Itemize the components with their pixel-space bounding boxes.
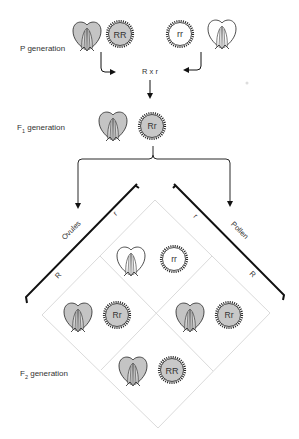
f2-top-white-flower-icon — [117, 247, 145, 276]
f2-right-red-flower-icon — [176, 303, 204, 332]
ovules-allele-r: r — [111, 209, 119, 217]
p-right-arrow — [186, 52, 201, 70]
f2-bottom-red-flower-icon — [119, 357, 147, 386]
f2-generation-label: F2 generation — [20, 369, 68, 380]
f1-genotype: Rr — [148, 121, 157, 131]
f1-red-flower-icon — [99, 112, 127, 141]
ovules-label: Ovules — [60, 219, 83, 242]
f2-top-genotype: rr — [171, 254, 177, 264]
f2-right-genotype: Rr — [225, 310, 234, 320]
f2-left-red-flower-icon — [64, 303, 92, 332]
p-generation-label: P generation — [20, 44, 65, 53]
pollen-bar — [173, 184, 284, 300]
p-red-flower-icon — [73, 22, 101, 51]
p-left-arrow — [101, 52, 113, 72]
f1-branch-right — [153, 155, 230, 204]
p-right-genotype: rr — [177, 29, 183, 39]
ovules-bar — [26, 184, 139, 303]
f2-left-genotype: Rr — [113, 310, 122, 320]
f1-generation-label: F1 generation — [17, 123, 65, 134]
pollen-allele-r: r — [192, 212, 200, 220]
pollen-allele-R: R — [248, 269, 259, 280]
f1-branch-left — [78, 146, 153, 206]
p-left-genotype: RR — [114, 30, 127, 40]
p-white-flower-icon — [208, 20, 236, 49]
f2-bottom-genotype: RR — [166, 366, 179, 376]
ovules-allele-R: R — [53, 270, 64, 281]
cross-label: R x r — [142, 67, 158, 76]
pollen-label: Pollen — [229, 220, 250, 241]
